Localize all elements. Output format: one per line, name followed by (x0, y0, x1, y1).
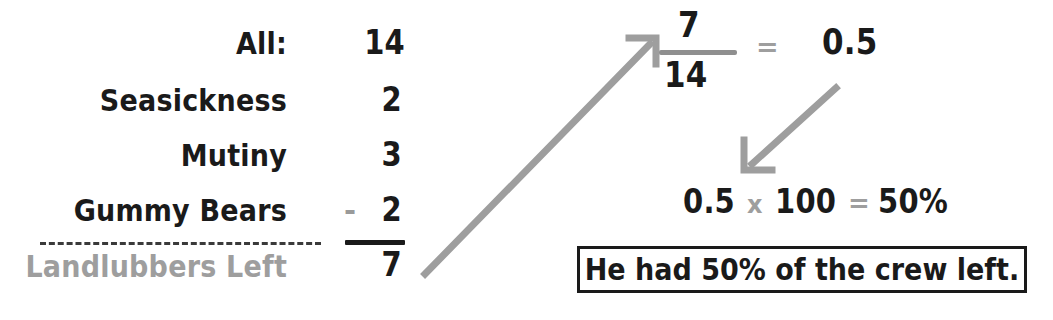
table-row-value-all: 14 (364, 27, 405, 60)
table-row-value-landlubbers-left: 7 (382, 249, 402, 282)
table-dashed-separator (40, 242, 321, 245)
table-row-label-seasickness: Seasickness (100, 85, 287, 116)
minus-operator: - (344, 196, 356, 225)
percent-result: 50% (878, 186, 948, 219)
table-row-label-mutiny: Mutiny (181, 140, 287, 171)
table-row-label-landlubbers-left: Landlubbers Left (25, 251, 287, 282)
table-row-label-all: All: (236, 28, 287, 59)
fraction-result: 0.5 (822, 25, 878, 60)
worksheet-canvas: All: 14 Seasickness 2 Mutiny 3 Gummy Bea… (0, 0, 1053, 320)
table-row-value-gummy-bears: 2 (382, 194, 402, 227)
percent-times-sign: x (747, 193, 763, 217)
fraction-denominator: 14 (664, 58, 708, 93)
table-sum-rule (345, 240, 405, 245)
percent-hundred: 100 (775, 186, 836, 219)
percent-decimal: 0.5 (683, 186, 735, 219)
answer-sentence: He had 50% of the crew left. (585, 252, 1020, 287)
arrow-total-to-fraction (425, 38, 656, 274)
arrow-decimal-to-percent (744, 88, 836, 170)
table-row-value-mutiny: 3 (382, 139, 402, 172)
percent-equals-sign: = (848, 190, 870, 216)
fraction-numerator: 7 (678, 8, 700, 43)
table-row-value-seasickness: 2 (382, 84, 402, 117)
answer-box: He had 50% of the crew left. (577, 246, 1027, 293)
fraction-equals-sign: = (756, 33, 779, 60)
table-row-label-gummy-bears: Gummy Bears (74, 195, 287, 226)
